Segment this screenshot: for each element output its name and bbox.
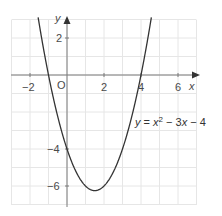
parabola-chart: x y O −2 2 4 6 2 −4 −6 y = x2 − 3x − 4	[0, 0, 222, 216]
grid	[12, 20, 197, 206]
y-axis-label: y	[54, 12, 62, 24]
x-tick-label: 6	[175, 81, 181, 93]
x-axis-label: x	[188, 80, 195, 92]
y-tick-label: 2	[56, 32, 62, 44]
equation-label: y = x2 − 3x − 4	[134, 115, 206, 128]
origin-label: O	[57, 79, 66, 91]
y-tick-label: −6	[47, 180, 60, 192]
x-tick-label: −2	[22, 81, 35, 93]
x-tick-label: 2	[101, 81, 107, 93]
x-tick-label: 4	[138, 81, 144, 93]
y-tick-label: −4	[47, 143, 60, 155]
